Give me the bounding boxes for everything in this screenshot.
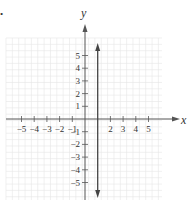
x-tick-label: 2: [108, 124, 113, 134]
x-tick-label: −3: [42, 124, 52, 134]
y-tick-label: −2: [70, 139, 80, 149]
x-axis-label: x: [180, 113, 187, 127]
y-tick-label: −4: [70, 165, 80, 175]
x-tick-label: −2: [55, 124, 65, 134]
y-tick-label: 1: [76, 101, 81, 111]
y-axis-arrow-icon: [83, 24, 88, 32]
y-tick-label: 5: [76, 51, 81, 61]
x-tick-label: 5: [146, 124, 151, 134]
x-tick-label: −4: [29, 124, 39, 134]
x-tick-label: 3: [121, 124, 126, 134]
y-tick-label: −1: [70, 127, 80, 137]
y-tick-label: 4: [76, 63, 81, 73]
x-axis-arrow-icon: [172, 117, 180, 122]
y-axis-label: y: [80, 6, 87, 20]
x-tick-label: 4: [134, 124, 139, 134]
y-tick-label: 3: [76, 76, 81, 86]
x-tick-label: −5: [17, 124, 27, 134]
coordinate-plane: −5−4−3−2−1234554321−1−2−3−4−5 x y •: [0, 0, 188, 212]
y-tick-label: 2: [76, 89, 81, 99]
y-tick-label: −3: [70, 152, 80, 162]
y-tick-label: −5: [70, 178, 80, 188]
problem-bullet: •: [0, 9, 3, 19]
